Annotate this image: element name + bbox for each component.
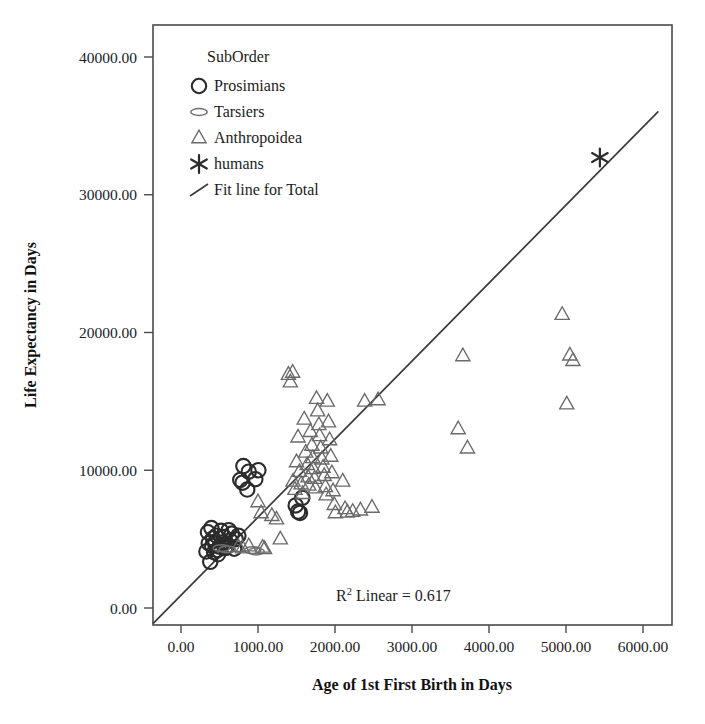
legend-item-tarsiers[interactable]: Tarsiers bbox=[191, 103, 265, 120]
data-points bbox=[199, 149, 607, 569]
circle-marker bbox=[251, 463, 265, 477]
y-tick-label: 20000.00 bbox=[79, 324, 137, 341]
y-axis-ticks: 0.0010000.0020000.0030000.0040000.00 bbox=[79, 49, 153, 617]
triangle-marker bbox=[371, 392, 385, 405]
triangle-marker bbox=[365, 500, 379, 513]
chart-legend: SubOrderProsimiansTarsiersAnthropoideahu… bbox=[190, 48, 319, 198]
x-tick-label: 1000.00 bbox=[233, 638, 284, 655]
triangle-marker bbox=[273, 531, 287, 544]
legend-title: SubOrder bbox=[207, 48, 270, 65]
x-tick-label: 4000.00 bbox=[464, 638, 515, 655]
legend-item-humans[interactable]: humans bbox=[191, 155, 264, 173]
triangle-marker bbox=[297, 411, 311, 424]
triangle-marker bbox=[566, 353, 580, 366]
legend-item-label: humans bbox=[214, 155, 264, 172]
legend-item-label: Anthropoidea bbox=[214, 129, 302, 147]
triangle-marker bbox=[560, 396, 574, 409]
x-tick-label: 3000.00 bbox=[387, 638, 438, 655]
series-humans bbox=[592, 149, 608, 167]
series-anthropoidea bbox=[231, 307, 580, 554]
r-squared-annotation: R2 Linear = 0.617 bbox=[336, 586, 451, 604]
line-marker bbox=[190, 184, 208, 196]
triangle-marker bbox=[311, 403, 325, 416]
legend-item-prosimians[interactable]: Prosimians bbox=[192, 77, 285, 94]
x-tick-label: 5000.00 bbox=[541, 638, 592, 655]
ellipse-marker bbox=[191, 109, 207, 116]
x-axis-ticks: 0.001000.002000.003000.004000.005000.006… bbox=[167, 625, 668, 655]
triangle-marker bbox=[456, 348, 470, 361]
x-tick-label: 6000.00 bbox=[618, 638, 669, 655]
scatter-plot: 0.001000.002000.003000.004000.005000.006… bbox=[0, 0, 705, 724]
triangle-marker bbox=[555, 307, 569, 320]
triangle-marker bbox=[309, 391, 323, 404]
x-tick-label: 2000.00 bbox=[310, 638, 361, 655]
legend-item-anthropoidea[interactable]: Anthropoidea bbox=[192, 129, 302, 147]
chart-container: 0.001000.002000.003000.004000.005000.006… bbox=[0, 0, 705, 724]
legend-item-label: Tarsiers bbox=[214, 103, 264, 120]
circle-marker bbox=[192, 79, 206, 93]
x-axis-title: Age of 1st First Birth in Days bbox=[312, 676, 512, 694]
y-tick-label: 10000.00 bbox=[79, 462, 137, 479]
triangle-marker bbox=[314, 440, 328, 453]
y-tick-label: 30000.00 bbox=[79, 186, 137, 203]
triangle-marker bbox=[451, 421, 465, 434]
triangle-marker bbox=[251, 494, 265, 507]
x-tick-label: 0.00 bbox=[167, 638, 194, 655]
triangle-marker bbox=[192, 130, 206, 143]
r-squared-value: Linear = 0.617 bbox=[352, 587, 451, 604]
y-axis-title: Life Expectancy in Days bbox=[22, 242, 40, 408]
triangle-marker bbox=[460, 440, 474, 453]
y-tick-label: 0.00 bbox=[110, 600, 137, 617]
asterisk-marker bbox=[191, 155, 207, 173]
legend-item-label: Fit line for Total bbox=[214, 181, 319, 198]
triangle-marker bbox=[289, 454, 303, 467]
asterisk-marker bbox=[592, 149, 608, 167]
legend-item-fit-line-for-total[interactable]: Fit line for Total bbox=[190, 181, 319, 198]
y-tick-label: 40000.00 bbox=[79, 49, 137, 66]
r-squared-letter: R bbox=[336, 587, 347, 604]
legend-item-label: Prosimians bbox=[214, 77, 285, 94]
triangle-marker bbox=[269, 511, 283, 524]
triangle-marker bbox=[283, 374, 297, 387]
